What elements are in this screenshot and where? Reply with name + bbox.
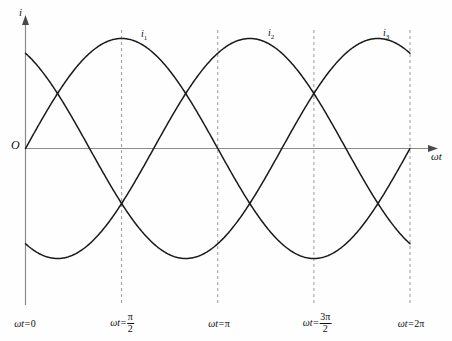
x-tick-1-numerator: π: [127, 312, 134, 324]
waveform-plot: [0, 0, 452, 341]
x-tick-3-omega: ωt=: [303, 317, 320, 328]
x-tick-1-fraction: π2: [127, 312, 134, 334]
x-tick-2-value: π: [225, 318, 230, 329]
dashed-gridlines-group: [122, 30, 410, 305]
x-tick-3-fraction: 3π2: [319, 312, 331, 334]
x-axis-label: ωt: [431, 150, 442, 162]
x-tick-4-omega: ωt=: [398, 318, 415, 329]
y-axis-label: i: [19, 6, 22, 18]
x-tick-0-value: 0: [31, 318, 36, 329]
x-tick-4-value: 2π: [414, 318, 424, 329]
three-phase-current-waveform-figure: i ωt O i1 i2 i3 ωt=0 ωt=π2 ωt=π ωt=3π2 ω…: [0, 0, 452, 341]
curve-label-i3-sub: 3: [386, 33, 390, 41]
x-tick-label-4: ωt=2π: [398, 318, 425, 329]
x-tick-label-0: ωt=0: [14, 318, 36, 329]
x-tick-label-1: ωt=π2: [110, 313, 134, 335]
curve-label-i1: i1: [141, 28, 147, 42]
y-axis-arrowhead: [22, 15, 29, 25]
x-tick-1-omega: ωt=: [110, 317, 127, 328]
x-tick-2-omega: ωt=: [208, 318, 225, 329]
curve-label-i2-sub: 2: [271, 33, 275, 41]
x-tick-3-denominator: 2: [319, 324, 331, 335]
curve-label-i3: i3: [383, 27, 389, 41]
origin-label: O: [11, 138, 20, 153]
x-tick-3-numerator: 3π: [319, 312, 331, 324]
x-tick-label-3: ωt=3π2: [303, 313, 332, 335]
x-tick-label-2: ωt=π: [208, 318, 230, 329]
curve-label-i2: i2: [268, 27, 274, 41]
x-tick-0-omega: ωt=: [14, 318, 31, 329]
x-tick-1-denominator: 2: [127, 324, 134, 335]
curve-label-i1-sub: 1: [144, 34, 148, 42]
